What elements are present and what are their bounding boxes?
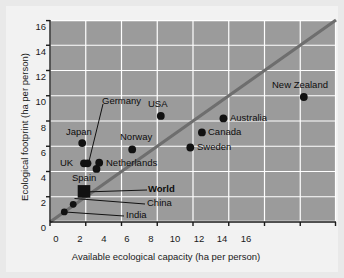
marker-norway — [128, 146, 136, 154]
point-label-new-zealand: New Zealand — [272, 80, 328, 90]
marker-canada — [198, 129, 206, 137]
plot-svg — [50, 20, 336, 222]
y-axis-title: Ecological footprint (ha per person) — [20, 26, 30, 228]
plot-area: New Zealand USA Australia Canada Sweden … — [50, 20, 336, 222]
point-label-uk: UK — [60, 158, 73, 168]
marker-germany — [84, 159, 92, 167]
point-label-canada: Canada — [208, 127, 241, 137]
marker-india — [61, 209, 68, 216]
point-label-netherlands: Netherlands — [106, 158, 157, 168]
point-label-japan: Japan — [66, 127, 92, 137]
point-label-china: China — [147, 198, 172, 208]
marker-new-zealand — [300, 93, 308, 101]
point-label-usa: USA — [148, 99, 168, 109]
point-label-sweden: Sweden — [197, 142, 231, 152]
marker-sweden — [186, 144, 194, 152]
point-label-world: World — [148, 184, 175, 194]
x-tick-label-16: 16 — [230, 234, 262, 244]
chart-canvas: 16 14 12 10 8 6 4 2 0 0 2 4 6 8 10 12 14… — [6, 6, 338, 272]
point-label-germany: Germany — [102, 96, 141, 106]
chart-figure: 16 14 12 10 8 6 4 2 0 0 2 4 6 8 10 12 14… — [0, 0, 344, 278]
marker-world — [78, 185, 91, 198]
marker-japan — [78, 139, 86, 147]
marker-usa — [157, 112, 165, 120]
point-label-india: India — [126, 210, 147, 220]
x-axis-title: Available ecological capacity (ha per pe… — [0, 252, 332, 262]
point-label-norway: Norway — [120, 132, 152, 142]
point-label-spain: Spain — [72, 173, 96, 183]
marker-australia — [220, 115, 228, 123]
leader-line-india — [65, 212, 124, 216]
marker-netherlands — [95, 159, 103, 167]
marker-china — [70, 201, 77, 208]
point-label-australia: Australia — [230, 113, 267, 123]
leader-line-china — [75, 199, 146, 205]
